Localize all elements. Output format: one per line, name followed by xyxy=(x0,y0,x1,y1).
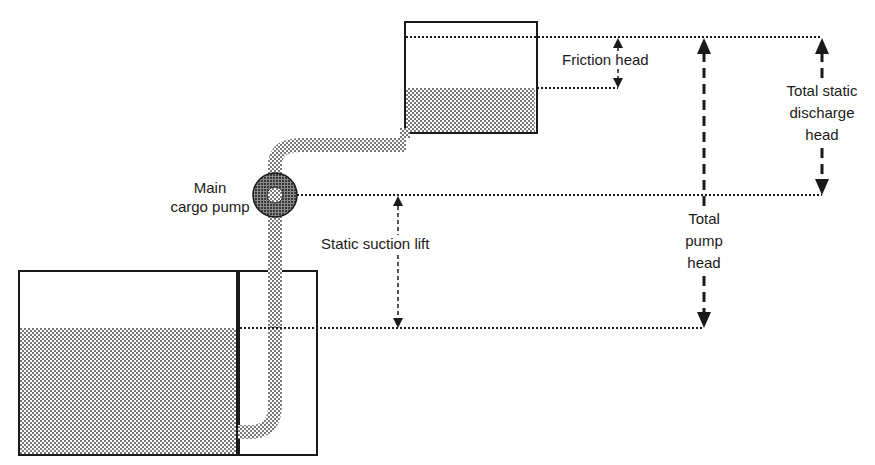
pipe-inlet xyxy=(400,128,410,138)
total-pump-head-arrow xyxy=(697,38,711,328)
pump-head-diagram xyxy=(0,0,875,465)
upper-tank xyxy=(405,22,537,133)
static-suction-lift-text: Static suction lift xyxy=(321,235,429,252)
main-cargo-pump-label: Main cargo pump xyxy=(160,178,260,216)
pump-impeller xyxy=(267,187,283,203)
total-pump-head-label: Total pump head xyxy=(672,208,736,274)
discharge-pipe xyxy=(275,145,406,175)
total-static-discharge-head-label: Total static discharge head xyxy=(760,80,875,146)
lower-tank-liquid xyxy=(20,328,238,455)
arrow-down-icon xyxy=(815,179,829,195)
upper-tank-liquid xyxy=(406,88,535,133)
friction-head-label: Friction head xyxy=(562,51,649,69)
arrow-down-icon xyxy=(697,312,711,328)
arrow-up-icon xyxy=(613,38,623,48)
label-line: head xyxy=(760,124,875,146)
arrow-up-icon xyxy=(815,38,829,54)
arrow-up-icon xyxy=(393,196,403,206)
arrow-up-icon xyxy=(697,38,711,54)
label-line: Total xyxy=(672,208,736,230)
static-suction-lift-arrow xyxy=(393,196,403,328)
static-suction-lift-label: Static suction lift xyxy=(321,235,429,253)
suction-pipe xyxy=(238,215,275,432)
reference-lines xyxy=(240,37,822,328)
label-line: head xyxy=(672,252,736,274)
arrow-down-icon xyxy=(613,78,623,88)
label-line: Main xyxy=(160,178,260,197)
label-line: cargo pump xyxy=(160,197,260,216)
label-line: pump xyxy=(672,230,736,252)
arrow-down-icon xyxy=(393,318,403,328)
label-line: discharge xyxy=(760,102,875,124)
friction-head-text: Friction head xyxy=(562,51,649,68)
label-line: Total static xyxy=(760,80,875,102)
pipeline xyxy=(238,128,410,432)
